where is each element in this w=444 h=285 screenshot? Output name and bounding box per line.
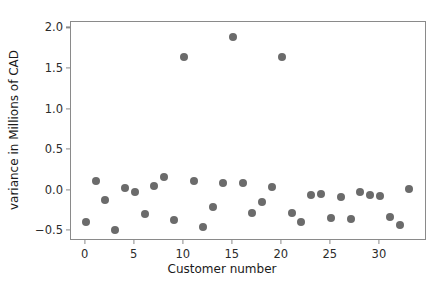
scatter-point: [229, 33, 237, 41]
scatter-point: [170, 216, 178, 224]
scatter-point: [337, 193, 345, 201]
scatter-point: [199, 223, 207, 231]
scatter-point: [160, 173, 168, 181]
y-axis-tick-label: 1.0: [45, 102, 63, 116]
scatter-point: [131, 188, 139, 196]
y-axis-tick-label: 1.5: [45, 61, 63, 75]
scatter-point: [297, 218, 305, 226]
x-axis-tick-mark: [182, 240, 183, 244]
x-axis-tick-mark: [280, 240, 281, 244]
scatter-point: [190, 177, 198, 185]
scatter-point: [92, 177, 100, 185]
y-axis-tick-label: 0.5: [45, 142, 63, 156]
scatter-point: [327, 214, 335, 222]
scatter-point: [366, 191, 374, 199]
x-axis-tick-label: 25: [323, 247, 338, 261]
scatter-point: [376, 192, 384, 200]
scatter-point: [209, 203, 217, 211]
scatter-point: [317, 190, 325, 198]
scatter-point: [258, 198, 266, 206]
y-axis-tick-label: 0.0: [45, 183, 63, 197]
scatter-point: [307, 191, 315, 199]
scatter-point: [121, 184, 129, 192]
x-axis-tick-mark: [329, 240, 330, 244]
scatter-point: [101, 196, 109, 204]
x-axis-tick-mark: [378, 240, 379, 244]
scatter-point: [141, 210, 149, 218]
scatter-point: [82, 218, 90, 226]
y-axis-label: variance in Millions of CAD: [7, 20, 21, 240]
x-axis-tick-mark: [133, 240, 134, 244]
y-axis-tick-label: 2.0: [45, 20, 63, 34]
x-axis-tick-label: 30: [372, 247, 387, 261]
scatter-point: [111, 226, 119, 234]
scatter-point: [288, 209, 296, 217]
scatter-point: [356, 188, 364, 196]
scatter-point: [150, 182, 158, 190]
scatter-point: [405, 185, 413, 193]
x-axis-tick-label: 10: [175, 247, 190, 261]
x-axis-tick-mark: [231, 240, 232, 244]
scatter-point: [180, 53, 188, 61]
scatter-point: [396, 221, 404, 229]
scatter-point: [268, 183, 276, 191]
scatter-point: [278, 53, 286, 61]
x-axis-tick-label: 15: [224, 247, 239, 261]
scatter-point: [347, 215, 355, 223]
x-axis-tick-label: 0: [81, 247, 88, 261]
scatter-point: [248, 209, 256, 217]
x-axis-tick-mark: [84, 240, 85, 244]
scatter-plot-figure: −0.50.00.51.01.52.0051015202530 variance…: [0, 0, 444, 285]
scatter-point: [386, 213, 394, 221]
x-axis-tick-label: 5: [130, 247, 137, 261]
scatter-point: [239, 179, 247, 187]
scatter-point: [219, 179, 227, 187]
y-axis-tick-label: −0.5: [35, 223, 63, 237]
plot-axes-area: [70, 21, 426, 240]
x-axis-label: Customer number: [0, 262, 444, 276]
x-axis-tick-label: 20: [274, 247, 289, 261]
